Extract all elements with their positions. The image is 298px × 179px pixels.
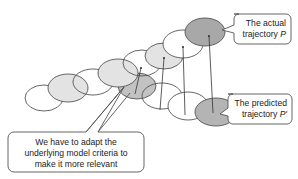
svg-text:The actual: The actual — [246, 18, 286, 28]
actual-callout-line1: The actual — [246, 18, 286, 28]
predicted-callout-line2: trajectory — [242, 109, 280, 119]
svg-text:trajectory P: trajectory P — [243, 29, 287, 39]
adapt-callout-line1: We have to adapt the — [35, 137, 117, 147]
svg-text:The predicted: The predicted — [234, 98, 287, 108]
svg-text:make it more relevant: make it more relevant — [35, 159, 118, 169]
svg-text:trajectory P': trajectory P' — [242, 109, 287, 119]
predicted-trajectory-symbol: P' — [280, 109, 288, 119]
svg-text:underlying model criteria to: underlying model criteria to — [24, 148, 127, 158]
svg-text:We have to adapt the: We have to adapt the — [35, 137, 117, 147]
predicted-trajectory-callout: The predicted trajectory P' — [220, 94, 292, 124]
actual-ellipse-8 — [185, 18, 225, 46]
trajectory-diagram: The actual trajectory P The predicted tr… — [0, 0, 298, 179]
predicted-callout-line1: The predicted — [234, 98, 287, 108]
actual-trajectory-symbol: P — [280, 29, 286, 39]
predicted-trajectory — [118, 73, 237, 126]
actual-ellipse-2 — [48, 74, 88, 102]
adapt-callout-line2: underlying model criteria to — [24, 148, 127, 158]
actual-callout-line2: trajectory — [243, 29, 281, 39]
adapt-callout-line3: make it more relevant — [35, 159, 118, 169]
actual-ellipse-4 — [98, 59, 138, 87]
actual-trajectory-callout: The actual trajectory P — [222, 14, 291, 44]
